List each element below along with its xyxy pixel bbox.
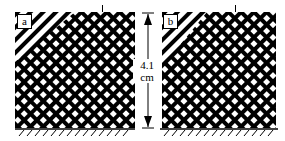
panel-a-label: a — [17, 14, 32, 29]
dimension-unit: cm — [133, 71, 161, 83]
dimension-value: 4.1 — [133, 59, 161, 71]
ground-hatch-b — [160, 128, 278, 136]
panel-a-wave-pattern — [15, 12, 135, 128]
panel-a-tick-mark — [102, 5, 103, 12]
panel-b-wave-pattern — [162, 12, 276, 128]
panel-b-label: b — [163, 14, 178, 29]
panel-b-tick-mark — [235, 5, 236, 12]
crosshatch-pattern-b — [162, 12, 276, 128]
crosshatch-pattern-a — [15, 12, 135, 128]
ground-hatch-a — [15, 128, 135, 136]
